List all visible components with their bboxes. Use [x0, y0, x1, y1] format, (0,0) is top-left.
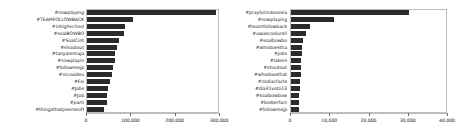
- x-axis-tick: [329, 113, 330, 116]
- x-axis-ticks-left: 0100,000200,000300,000: [0, 0, 228, 134]
- chart-panel-right: #prayforindonesia#nowplaying#teamfollowb…: [228, 0, 456, 134]
- x-axis-tick-label: 200,000: [165, 118, 184, 123]
- x-axis-tick: [86, 113, 87, 116]
- chart-panel-left: #nowplaying#TEAMFOLLOWBACK#inhighschool#…: [0, 0, 228, 134]
- x-axis-tick: [447, 113, 448, 116]
- x-axis-tick-label: 0: [85, 118, 88, 123]
- x-axis-tick: [290, 113, 291, 116]
- x-axis-tick-label: 300,000: [210, 118, 229, 123]
- x-axis-tick-label: 100,000: [121, 118, 140, 123]
- x-axis-tick: [130, 113, 131, 116]
- x-axis-ticks-right: 010,00020,00030,00040,000: [228, 0, 456, 134]
- x-axis-tick: [219, 113, 220, 116]
- x-axis-tick-label: 10,000: [321, 118, 337, 123]
- figure-canvas: #nowplaying#TEAMFOLLOWBACK#inhighschool#…: [0, 0, 456, 134]
- x-axis-tick-label: 40,000: [439, 118, 455, 123]
- x-axis-tick-label: 20,000: [361, 118, 377, 123]
- x-axis-tick: [175, 113, 176, 116]
- x-axis-tick-label: 0: [289, 118, 292, 123]
- x-axis-tick-label: 30,000: [400, 118, 416, 123]
- x-axis-tick: [408, 113, 409, 116]
- x-axis-tick: [369, 113, 370, 116]
